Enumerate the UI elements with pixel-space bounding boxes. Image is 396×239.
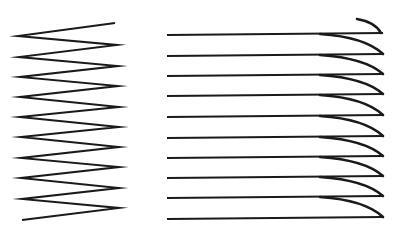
curved-end xyxy=(320,95,383,115)
line-drawing xyxy=(0,0,396,239)
horizontal-line xyxy=(167,115,383,117)
horizontal-line xyxy=(167,217,383,219)
top-hook-curve xyxy=(357,19,381,33)
horizontal-line xyxy=(167,176,383,178)
curved-end xyxy=(320,157,383,176)
horizontal-line xyxy=(167,136,383,138)
zigzag-line xyxy=(18,23,119,220)
curved-lines-stack xyxy=(167,19,383,219)
horizontal-line xyxy=(167,94,383,96)
curved-end xyxy=(320,177,383,196)
horizontal-line xyxy=(167,74,383,76)
zigzag-polyline xyxy=(18,23,119,220)
curved-end xyxy=(320,55,383,74)
horizontal-line xyxy=(167,33,383,35)
curved-end xyxy=(320,75,383,94)
curved-end xyxy=(320,116,383,136)
horizontal-line xyxy=(167,196,383,198)
horizontal-line xyxy=(167,54,383,56)
curved-end xyxy=(320,197,383,217)
curved-end xyxy=(320,34,383,54)
horizontal-line xyxy=(167,156,383,158)
diagram-canvas xyxy=(0,0,396,239)
curved-end xyxy=(320,137,383,156)
